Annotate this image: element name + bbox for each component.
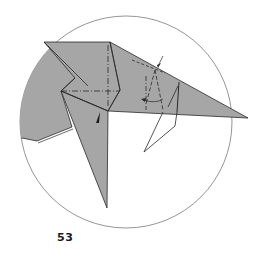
step-number: 53 [57, 231, 73, 244]
head-flap [108, 42, 248, 118]
hanging-leg-outline [144, 112, 177, 152]
lower-flap [61, 91, 108, 208]
origami-step-diagram [0, 0, 262, 266]
push-arrow [159, 56, 163, 64]
